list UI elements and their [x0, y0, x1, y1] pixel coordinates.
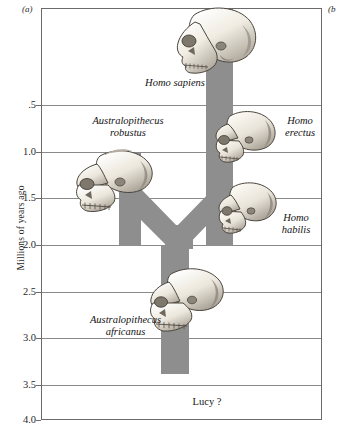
label-australopithecus-africanus: Australopithecusafricanus	[58, 314, 193, 338]
y-tick-label-6: 3.5	[6, 379, 36, 390]
skull-homo-sapiens	[164, 5, 262, 77]
plot-area: Homo sapiens Australopithecusrobustus Ho…	[41, 8, 322, 420]
gridline-3.5	[42, 385, 321, 386]
y-axis-title: Millions of years ago	[16, 158, 26, 298]
label-homo-erectus: Homoerectus	[260, 115, 337, 139]
gridline-0.5	[42, 105, 321, 106]
label-australopithecus-robustus: Australopithecusrobustus	[68, 115, 188, 139]
label-lucy: Lucy ?	[152, 396, 262, 407]
panel-label-b: (b	[328, 4, 336, 14]
y-tick-label-2: 1.5	[6, 192, 36, 203]
figure-panel-a: (a) (b Millions of years ago .5 1.0 1.5 …	[0, 0, 337, 429]
label-homo-habilis: Homohabilis	[256, 212, 336, 236]
panel-label-a: (a)	[22, 4, 33, 14]
y-tick-label-0: .5	[6, 99, 36, 110]
skull-australopithecus-robustus	[66, 145, 162, 217]
label-homo-sapiens: Homo sapiens	[120, 77, 230, 89]
y-tick-label-4: 2.5	[6, 286, 36, 297]
y-tick-label-5: 3.0	[6, 332, 36, 343]
y-tick-mark-7	[36, 420, 41, 421]
y-tick-label-3: 2.0	[6, 239, 36, 250]
y-tick-label-1: 1.0	[6, 146, 36, 157]
y-tick-label-7: 4.0	[6, 414, 36, 425]
